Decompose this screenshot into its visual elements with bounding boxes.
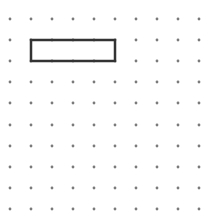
grid-dot <box>198 124 201 127</box>
grid-dot <box>198 18 201 21</box>
grid-dot <box>177 208 180 211</box>
grid-dot <box>198 102 201 105</box>
grid-dot <box>135 145 138 148</box>
dot-grid-canvas[interactable] <box>0 0 209 221</box>
grid-dot <box>72 81 75 84</box>
grid-dot <box>135 60 138 63</box>
grid-dot <box>30 145 33 148</box>
grid-dot <box>51 102 54 105</box>
grid-dot <box>30 18 33 21</box>
grid-dot <box>30 208 33 211</box>
grid-dot <box>93 145 96 148</box>
grid-dot <box>9 124 12 127</box>
grid-dot <box>135 166 138 169</box>
grid-dot <box>93 102 96 105</box>
grid-dot <box>93 124 96 127</box>
grid-dot <box>51 145 54 148</box>
grid-dot <box>9 18 12 21</box>
grid-dot <box>9 39 12 42</box>
grid-dot <box>72 166 75 169</box>
grid-dot <box>156 81 159 84</box>
grid-dot <box>177 187 180 190</box>
rectangle-shape[interactable] <box>31 40 115 61</box>
grid-dot <box>135 124 138 127</box>
grid-dot <box>9 187 12 190</box>
grid-dot <box>177 145 180 148</box>
grid-dot <box>93 18 96 21</box>
grid-dot <box>114 124 117 127</box>
grid-dot <box>72 102 75 105</box>
grid-dot <box>198 81 201 84</box>
grid-dot <box>135 39 138 42</box>
grid-dot <box>93 166 96 169</box>
grid-dot <box>9 166 12 169</box>
grid-dot <box>177 18 180 21</box>
grid-dot <box>51 208 54 211</box>
grid-dot <box>114 18 117 21</box>
grid-dot <box>30 124 33 127</box>
grid-dot <box>135 208 138 211</box>
grid-dot <box>198 166 201 169</box>
grid-dot <box>135 81 138 84</box>
grid-dot <box>51 81 54 84</box>
grid-dot <box>177 124 180 127</box>
grid-dot <box>9 81 12 84</box>
grid-dot <box>156 208 159 211</box>
grid-dot <box>156 102 159 105</box>
grid-dot <box>30 166 33 169</box>
grid-dot <box>156 39 159 42</box>
grid-dot <box>9 145 12 148</box>
grid-dot <box>177 102 180 105</box>
grid-dot <box>30 81 33 84</box>
grid-dot <box>51 18 54 21</box>
grid-dot <box>114 187 117 190</box>
grid-dot <box>177 166 180 169</box>
grid-dot <box>72 145 75 148</box>
grid-dot <box>51 187 54 190</box>
grid-dot <box>30 102 33 105</box>
grid-dot <box>93 81 96 84</box>
grid-dot <box>114 81 117 84</box>
grid-dot <box>114 102 117 105</box>
grid-dot <box>198 39 201 42</box>
grid-dot <box>51 124 54 127</box>
grid-dot <box>198 208 201 211</box>
grid-dot <box>30 187 33 190</box>
grid-dot <box>156 187 159 190</box>
grid-dot <box>156 60 159 63</box>
grid-dot <box>177 81 180 84</box>
grid-dot <box>72 187 75 190</box>
grid-dot <box>135 187 138 190</box>
grid-dot <box>51 166 54 169</box>
grid-dot <box>72 208 75 211</box>
grid-dot <box>72 18 75 21</box>
drawn-shapes <box>31 40 115 61</box>
grid-dot <box>72 124 75 127</box>
grid-dot <box>198 187 201 190</box>
grid-dot <box>93 187 96 190</box>
grid-dot <box>114 208 117 211</box>
grid-dot <box>156 145 159 148</box>
grid-dot <box>135 102 138 105</box>
grid-dot <box>156 166 159 169</box>
grid-dot <box>198 145 201 148</box>
grid-dot <box>93 208 96 211</box>
grid-dot <box>114 166 117 169</box>
grid-dot <box>135 18 138 21</box>
grid-dot <box>198 60 201 63</box>
grid-dot <box>114 145 117 148</box>
grid-dot <box>9 60 12 63</box>
grid-dot <box>177 60 180 63</box>
grid-dot <box>156 124 159 127</box>
grid-dot <box>156 18 159 21</box>
grid-dot <box>9 102 12 105</box>
grid-dot <box>9 208 12 211</box>
grid-dots <box>9 18 201 211</box>
grid-dot <box>177 39 180 42</box>
